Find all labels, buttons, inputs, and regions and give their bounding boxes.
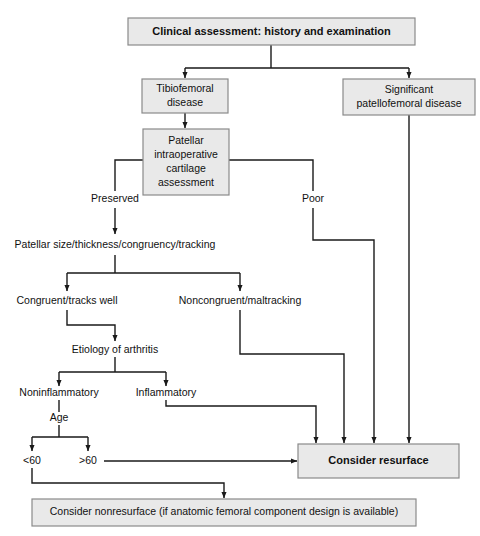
node-preserved-label: Preserved	[91, 192, 139, 204]
patellofemoral-label-line1: Significant	[385, 83, 434, 95]
edge-patellar-size-split	[67, 255, 240, 273]
edge-under60-to-nonresurface	[32, 468, 224, 498]
edge-age-split	[32, 425, 88, 437]
node-under60-label: <60	[23, 454, 41, 466]
node-tibiofemoral-disease[interactable]: Tibiofemoral disease	[142, 79, 228, 113]
node-consider-resurface[interactable]: Consider resurface	[298, 444, 459, 478]
tibiofemoral-label-line2: disease	[167, 96, 203, 108]
consider-resurface-label: Consider resurface	[328, 454, 428, 466]
node-poor-label: Poor	[302, 192, 325, 204]
edge-assessment-split	[185, 45, 409, 68]
node-noninflammatory-label: Noninflammatory	[19, 386, 99, 398]
edge-congruent-to-etiology	[67, 310, 115, 341]
node-inflammatory-label: Inflammatory	[136, 386, 197, 398]
tibiofemoral-label-line1: Tibiofemoral	[156, 82, 213, 94]
node-etiology-label: Etiology of arthritis	[72, 343, 158, 355]
node-over60-label: >60	[79, 454, 97, 466]
edge-patellar-to-poor	[229, 160, 313, 191]
consider-nonresurface-label: Consider nonresurface (if anatomic femor…	[50, 505, 398, 517]
node-patellar-size-label: Patellar size/thickness/congruency/track…	[15, 238, 216, 250]
node-clinical-assessment[interactable]: Clinical assessment: history and examina…	[128, 18, 415, 45]
edge-patellar-to-preserved	[115, 160, 143, 191]
patellar-assessment-label-line3: cartilage	[166, 162, 206, 174]
edge-etiology-split	[59, 357, 166, 372]
patellofemoral-label-line2: patellofemoral disease	[356, 97, 461, 109]
patellar-assessment-label-line1: Patellar	[168, 134, 204, 146]
flowchart-canvas: Clinical assessment: history and examina…	[0, 0, 480, 536]
clinical-assessment-label: Clinical assessment: history and examina…	[152, 25, 391, 37]
edge-inflammatory-to-resurface	[166, 400, 316, 443]
node-age-label: Age	[50, 411, 69, 423]
node-congruent-label: Congruent/tracks well	[17, 294, 118, 306]
node-noncongruent-label: Noncongruent/maltracking	[179, 294, 302, 306]
flowchart-svg: Clinical assessment: history and examina…	[0, 0, 480, 536]
node-significant-patellofemoral-disease[interactable]: Significant patellofemoral disease	[343, 79, 475, 115]
patellar-assessment-label-line4: assessment	[158, 176, 214, 188]
node-consider-nonresurface[interactable]: Consider nonresurface (if anatomic femor…	[32, 499, 416, 526]
edge-noncongruent-to-resurface	[240, 310, 344, 443]
patellar-assessment-label-line2: intraoperative	[154, 148, 218, 160]
node-patellar-intraoperative-assessment[interactable]: Patellar intraoperative cartilage assess…	[143, 129, 229, 195]
